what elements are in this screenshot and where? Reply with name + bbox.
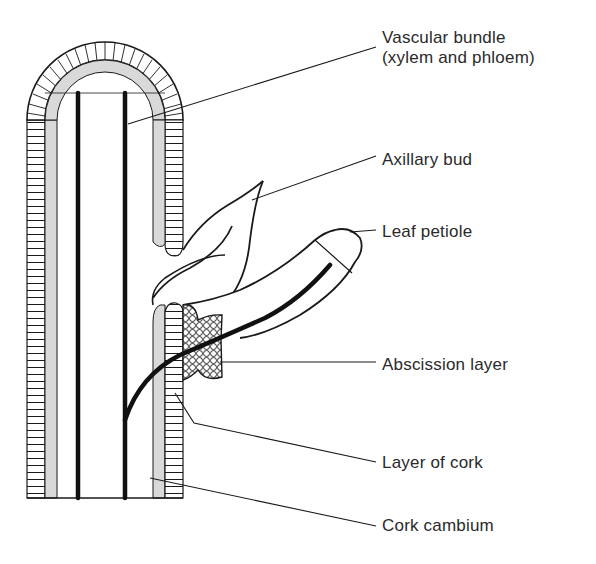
label-line: (xylem and phloem) xyxy=(382,48,535,68)
label-text: Leaf petiole xyxy=(382,222,472,241)
label-leaf-petiole: Leaf petiole xyxy=(382,222,472,242)
label-layer-of-cork: Layer of cork xyxy=(382,453,483,473)
label-text: Axillary bud xyxy=(382,150,472,169)
leader-layer-of-cork xyxy=(175,393,376,462)
label-cork-cambium: Cork cambium xyxy=(382,516,494,536)
label-text: Abscission layer xyxy=(382,355,508,374)
stem-left-wall xyxy=(27,120,57,498)
leader-cork-cambium xyxy=(150,478,376,526)
stem-right-lower-wall xyxy=(153,303,183,498)
stem-diagram xyxy=(0,0,596,564)
leader-leaf-petiole xyxy=(350,230,376,232)
leader-axillary-bud xyxy=(252,156,376,200)
stem-right-upper-wall xyxy=(153,120,183,256)
label-abscission-layer: Abscission layer xyxy=(382,355,508,375)
label-text: Cork cambium xyxy=(382,516,494,535)
vascular-strands xyxy=(78,93,125,498)
stem-apex-arch xyxy=(27,42,183,120)
label-axillary-bud: Axillary bud xyxy=(382,150,472,170)
label-text: Layer of cork xyxy=(382,453,483,472)
label-line: Vascular bundle xyxy=(382,28,535,48)
label-vascular-bundle: Vascular bundle (xylem and phloem) xyxy=(382,28,535,68)
